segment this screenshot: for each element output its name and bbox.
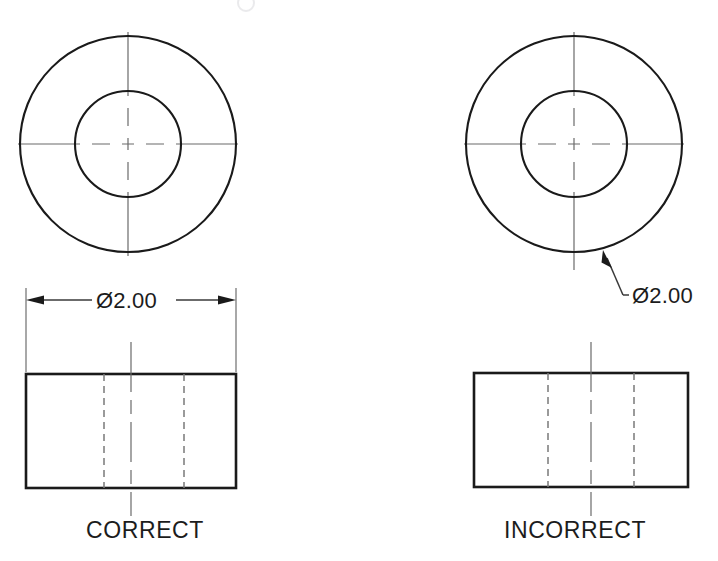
dimension-label-correct: Ø2.00 <box>96 288 157 314</box>
drawing-sheet: Ø2.00 Ø2.00 CORRECT INCORRECT <box>0 0 718 561</box>
panel-incorrect <box>464 32 688 516</box>
incorrect-leader-arrowhead <box>602 250 613 268</box>
panel-correct <box>18 32 238 516</box>
incorrect-leader-line <box>602 250 630 295</box>
caption-incorrect: INCORRECT <box>430 517 718 544</box>
correct-circular-centerlines <box>18 32 238 256</box>
caption-correct: CORRECT <box>0 517 290 544</box>
dimension-label-incorrect: Ø2.00 <box>632 283 693 309</box>
correct-dimension-arrow-right <box>218 296 236 305</box>
correct-hidden-lines <box>104 374 184 488</box>
incorrect-side-view-rect <box>474 373 688 487</box>
technical-drawing-canvas <box>0 0 718 561</box>
correct-dimension-arrow-left <box>26 296 44 305</box>
